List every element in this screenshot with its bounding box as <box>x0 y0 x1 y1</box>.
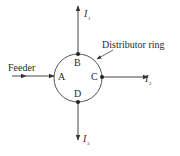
node-c-label: C <box>91 71 98 82</box>
svg-text:2: 2 <box>149 81 152 86</box>
node-b-label: B <box>74 57 81 68</box>
node-d-label: D <box>74 88 81 99</box>
node-a-label: A <box>58 71 66 82</box>
node-c-dot <box>100 75 104 79</box>
feeder-label: Feeder <box>8 62 36 73</box>
svg-text:1: 1 <box>88 16 91 21</box>
ring-label-pointer <box>97 50 113 59</box>
ring-label: Distributor ring <box>102 39 165 50</box>
svg-text:3: 3 <box>87 141 90 146</box>
i1-label: I 1 <box>83 8 91 21</box>
node-d-dot <box>76 100 80 104</box>
i3-label: I 3 <box>82 133 90 146</box>
i2-label: I 2 <box>144 73 152 86</box>
node-b-dot <box>76 52 80 56</box>
distributor-ring-diagram: Feeder Distributor ring A B C D I 1 I 2 … <box>0 0 180 156</box>
